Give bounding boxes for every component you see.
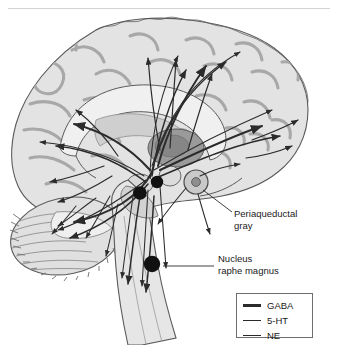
- periaqueductal-gray-label-line1: Periaqueductal: [234, 208, 297, 220]
- legend-label-ne: NE: [267, 330, 280, 341]
- legend-item-ne: NE: [237, 328, 312, 343]
- locus-coeruleus-dot: [151, 176, 163, 188]
- raphe-nucleus-dot-upper: [133, 186, 147, 200]
- legend-swatch-ne: [243, 335, 261, 336]
- periaqueductal-gray-label-line2: gray: [234, 220, 297, 232]
- nucleus-raphe-magnus-dot: [144, 256, 160, 272]
- legend: GABA 5-HT NE: [236, 293, 313, 338]
- brain-pathway-figure: Periaqueductal gray Nucleus raphe magnus…: [0, 0, 337, 345]
- legend-item-5ht: 5-HT: [237, 313, 312, 328]
- nucleus-raphe-magnus-label: Nucleus raphe magnus: [218, 253, 279, 276]
- legend-swatch-5ht: [243, 320, 261, 322]
- legend-swatch-gaba: [243, 304, 261, 306]
- legend-label-gaba: GABA: [267, 300, 293, 311]
- legend-item-gaba: GABA: [237, 298, 312, 313]
- top-divider-rule: [8, 8, 330, 9]
- periaqueductal-gray-label: Periaqueductal gray: [234, 208, 297, 231]
- nucleus-raphe-magnus-label-line2: raphe magnus: [218, 265, 279, 277]
- legend-label-5ht: 5-HT: [267, 315, 288, 326]
- nucleus-raphe-magnus-label-line1: Nucleus: [218, 253, 279, 265]
